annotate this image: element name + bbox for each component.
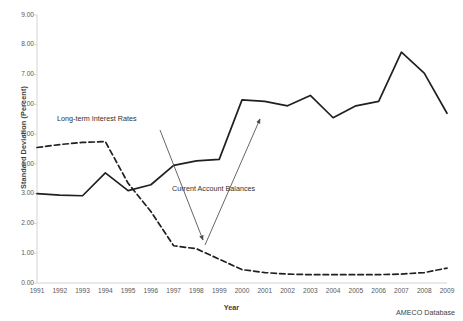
- series-line-current-account-balances: [37, 52, 447, 196]
- annotation-current-account-balances: Current Account Balances: [172, 184, 255, 193]
- annotation-long-term-interest-rates: Long-term Interest Rates: [57, 114, 137, 123]
- plot-area: [0, 0, 463, 321]
- x-axis-tick-labels: 1991199219931994199519961997199819992000…: [0, 288, 463, 302]
- axis-lines: [34, 15, 447, 283]
- chart-container: Standard Deviation (Percent) 0.001.002.0…: [0, 0, 463, 321]
- annotation-arrows: [160, 119, 260, 245]
- series-line-long-term-interest-rates: [37, 142, 447, 275]
- series-lines: [37, 52, 447, 274]
- source-note: AMECO Database: [396, 308, 455, 317]
- annotation-arrow-current-account-balances: [205, 119, 260, 245]
- x-tick-label: 2009: [432, 288, 462, 295]
- x-axis-title: Year: [0, 303, 463, 312]
